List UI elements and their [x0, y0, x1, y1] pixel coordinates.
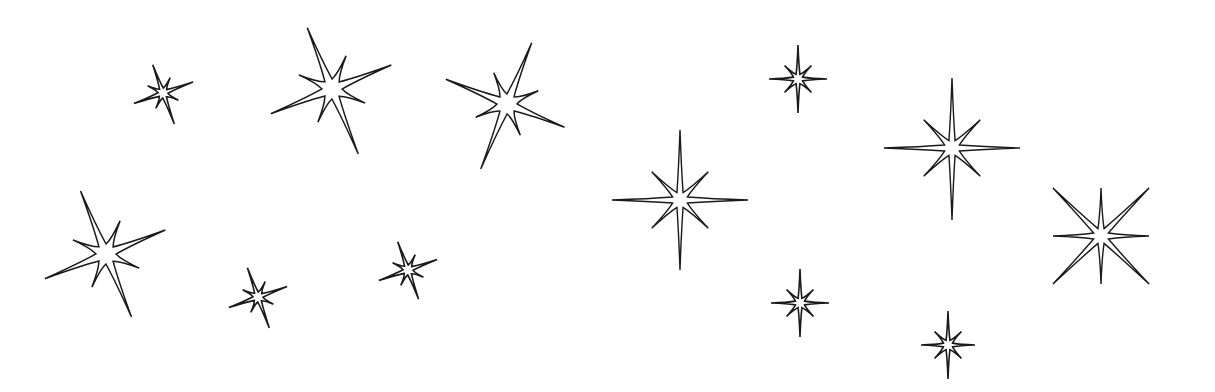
sparkle-star-icon: [612, 130, 748, 270]
sparkle-star-icon: [45, 191, 166, 317]
sparkle-canvas: [0, 0, 1215, 392]
star-outline: [271, 28, 392, 154]
sparkle-star-icon: [1053, 188, 1149, 284]
star-outline: [612, 130, 748, 270]
star-outline: [771, 269, 829, 337]
sparkle-star-icon: [921, 311, 975, 379]
star-outline: [884, 78, 1020, 220]
sparkle-star-icon: [134, 65, 193, 124]
star-outline: [921, 311, 975, 379]
sparkle-star-icon: [769, 45, 827, 113]
star-outline: [1053, 188, 1149, 284]
star-outline: [229, 268, 287, 328]
sparkle-star-icon: [379, 242, 437, 299]
sparkle-star-icon: [271, 28, 392, 154]
sparkle-star-icon: [446, 43, 565, 169]
stars-layer: [45, 28, 1149, 379]
star-outline: [769, 45, 827, 113]
sparkle-star-icon: [884, 78, 1020, 220]
sparkle-star-icon: [771, 269, 829, 337]
star-outline: [45, 191, 166, 317]
sparkle-star-icon: [229, 268, 287, 328]
star-outline: [134, 65, 193, 124]
star-outline: [446, 43, 565, 169]
star-outline: [379, 242, 437, 299]
